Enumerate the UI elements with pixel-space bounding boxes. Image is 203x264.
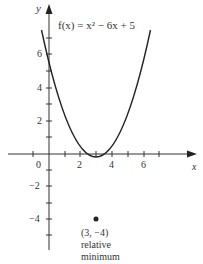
parabola-curve <box>42 30 151 157</box>
annotation-relative: relative <box>81 240 111 250</box>
y-tick-label-6: 6 <box>37 49 42 59</box>
vertex-coordinates: (3, −4) <box>81 228 108 238</box>
y-tick-label-4: 4 <box>37 83 42 93</box>
y-tick-label-2: 2 <box>37 116 42 126</box>
y-axis-label: y <box>36 3 41 14</box>
x-axis-arrow-icon <box>187 151 197 158</box>
y-axis-arrow-icon <box>46 4 53 14</box>
x-axis-label: x <box>192 162 196 172</box>
vertex-point <box>94 217 99 222</box>
x-tick-label-2: 2 <box>77 160 82 170</box>
origin-label: 0 <box>36 160 41 170</box>
y-tick-label-neg4: −4 <box>29 214 40 224</box>
chart-plot <box>0 0 203 264</box>
function-title: f(x) = x² − 6x + 5 <box>58 20 135 31</box>
x-tick-label-4: 4 <box>109 160 114 170</box>
annotation-minimum: minimum <box>81 252 120 262</box>
x-tick-label-6: 6 <box>141 160 146 170</box>
y-tick-label-neg2: −2 <box>29 181 40 191</box>
